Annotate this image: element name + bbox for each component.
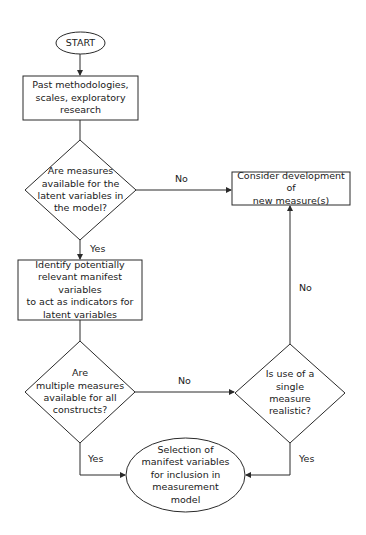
end-label: Selection of manifest variables for incl… bbox=[126, 440, 245, 510]
q3-label: Is use of a single measure realistic? bbox=[245, 364, 335, 422]
q2-no-label: No bbox=[178, 375, 191, 386]
start-label: START bbox=[56, 33, 105, 53]
q1-label: Are measures available for the latent va… bbox=[25, 160, 136, 220]
q2-label: Are multiple measures available for all … bbox=[25, 362, 135, 422]
q1-yes-label: Yes bbox=[90, 243, 105, 254]
past-label: Past methodologies, scales, exploratory … bbox=[23, 76, 138, 120]
identify-label: Identify potentially relevant manifest v… bbox=[18, 260, 142, 320]
edge-q3-end bbox=[246, 443, 290, 475]
q3-no-label: No bbox=[299, 282, 312, 293]
q1-no-label: No bbox=[175, 173, 188, 184]
q3-yes-label: Yes bbox=[299, 453, 314, 464]
consider-label: Consider development of new measure(s) bbox=[232, 172, 350, 205]
q2-yes-label: Yes bbox=[88, 453, 103, 464]
